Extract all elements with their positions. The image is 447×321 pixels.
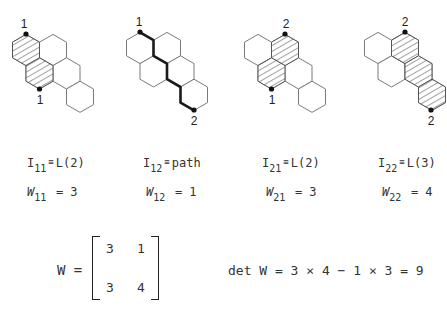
- vertex-label-bottom: 1: [37, 93, 44, 107]
- weight-subscript: 22: [389, 192, 401, 203]
- matrix-cell-1-2: 1: [137, 241, 145, 256]
- vertex-label-top: 2: [283, 17, 290, 31]
- vertex-dot-bottom: [428, 107, 433, 112]
- panel-i22-graph: 2 2: [365, 15, 446, 128]
- vertex-dot-top: [137, 29, 142, 34]
- matrix-cell-2-1: 3: [106, 280, 114, 295]
- equiv-sign: ≡: [281, 157, 290, 167]
- vertex-dot-top: [402, 29, 407, 34]
- equiv-sign: ≡: [46, 157, 55, 167]
- label-subscript: 11: [34, 163, 46, 174]
- label-subscript: 22: [385, 163, 397, 174]
- equiv-sign: ≡: [162, 157, 171, 167]
- vertex-label-bottom: 2: [428, 114, 435, 128]
- vertex-dot-bottom: [269, 86, 274, 91]
- weight-subscript: 11: [34, 192, 46, 203]
- matrix-cell-1-1: 3: [106, 241, 114, 256]
- weight-value: = 4: [411, 185, 433, 199]
- vertex-dot-top: [23, 31, 28, 36]
- panel-i12-graph: 1 2: [127, 15, 208, 128]
- vertex-dot-bottom: [37, 86, 42, 91]
- vertex-label-bottom: 1: [269, 93, 276, 107]
- vertex-label-top: 1: [21, 17, 28, 31]
- label-subscript: 21: [269, 163, 281, 174]
- determinant-equation: det W = 3 × 4 − 1 × 3 = 9: [228, 263, 424, 278]
- panel-i21-weight: W21 = 3: [266, 181, 317, 200]
- panel-i12-label: I12≡path: [143, 152, 201, 171]
- matrix-lhs: W =: [57, 262, 82, 278]
- vertex-dot-top: [282, 31, 287, 36]
- equiv-sign: ≡: [397, 157, 406, 167]
- vertex-label-top: 1: [136, 15, 143, 29]
- panel-i21-graph: 2 1: [245, 17, 326, 112]
- matrix-right-bracket: [151, 236, 159, 300]
- label-value: path: [172, 156, 201, 170]
- vertex-label-bottom: 2: [191, 114, 198, 128]
- panel-i11-graph: 1 1: [13, 17, 94, 112]
- vertex-label-top: 2: [402, 15, 409, 29]
- panel-i21-label: I21≡L(2): [262, 152, 320, 171]
- matrix-cell-2-2: 4: [137, 280, 145, 295]
- weight-subscript: 12: [153, 192, 165, 203]
- label-value: L(2): [291, 156, 320, 170]
- label-subscript: 12: [150, 163, 162, 174]
- hexagon-lattice-figure: 1 1 1 2 2 1 2 2: [0, 0, 447, 140]
- weight-value: = 3: [56, 185, 78, 199]
- label-value: L(3): [407, 156, 436, 170]
- vertex-dot-bottom: [191, 107, 196, 112]
- weight-value: = 3: [295, 185, 317, 199]
- panel-i11-label: I11≡L(2): [27, 152, 85, 171]
- label-value: L(2): [56, 156, 85, 170]
- matrix-left-bracket: [92, 236, 100, 300]
- weight-subscript: 21: [273, 192, 285, 203]
- panel-i22-weight: W22 = 4: [382, 181, 433, 200]
- panel-i22-label: I22≡L(3): [378, 152, 436, 171]
- panel-i11-weight: W11 = 3: [27, 181, 78, 200]
- panel-i12-weight: W12 = 1: [146, 181, 197, 200]
- weight-value: = 1: [175, 185, 197, 199]
